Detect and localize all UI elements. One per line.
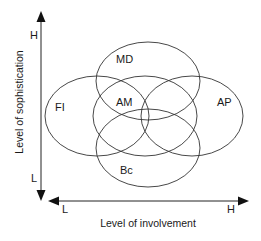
x-axis-title: Level of involvement — [100, 218, 196, 229]
set-label-am: AM — [116, 97, 133, 108]
ellipse-am — [93, 76, 197, 156]
x-axis-high-label: H — [227, 204, 235, 215]
ellipse-bc — [96, 109, 200, 187]
x-axis-right-arrow-icon — [238, 197, 249, 206]
x-axis-low-label: L — [62, 204, 68, 215]
y-axis-title: Level of sophistication — [14, 50, 25, 153]
venn-diagram: MD FI AM AP Bc H L L H Level of sophisti… — [0, 0, 261, 241]
y-axis-low-label: L — [31, 173, 37, 184]
set-label-ap: AP — [217, 97, 232, 108]
y-axis-down-arrow-icon — [37, 190, 46, 201]
ellipse-ap — [141, 76, 243, 156]
diagram-canvas — [0, 0, 261, 241]
y-axis-up-arrow-icon — [37, 11, 46, 22]
x-axis-left-arrow-icon — [48, 197, 59, 206]
set-label-bc: Bc — [120, 165, 133, 176]
set-label-fi: FI — [55, 102, 65, 113]
y-axis-high-label: H — [30, 30, 38, 41]
set-label-md: MD — [116, 54, 133, 65]
